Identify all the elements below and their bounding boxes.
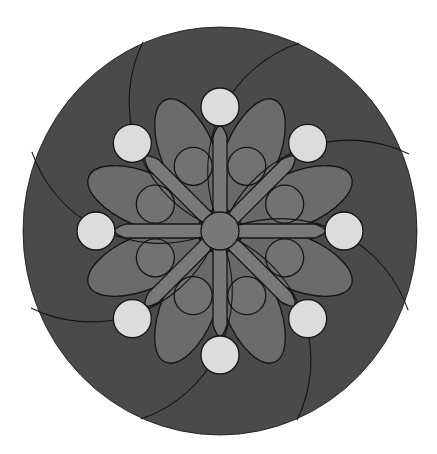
- white-circle: [113, 124, 151, 162]
- mandala-figure: [0, 0, 437, 454]
- white-circle: [201, 88, 239, 126]
- inner-circle: [228, 277, 266, 315]
- white-circle: [77, 212, 115, 250]
- inner-circle: [266, 239, 304, 277]
- inner-circle: [228, 147, 266, 185]
- inner-circle: [136, 185, 174, 223]
- white-circle: [201, 336, 239, 374]
- white-circle: [289, 124, 327, 162]
- white-circle: [113, 300, 151, 338]
- inner-circle: [174, 147, 212, 185]
- inner-circle: [136, 239, 174, 277]
- inner-circle: [266, 185, 304, 223]
- inner-circle: [174, 277, 212, 315]
- center-circle: [201, 212, 239, 250]
- white-circle: [325, 212, 363, 250]
- white-circle: [289, 300, 327, 338]
